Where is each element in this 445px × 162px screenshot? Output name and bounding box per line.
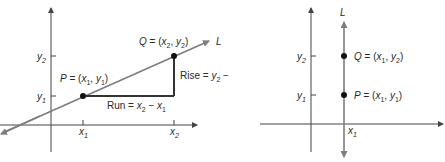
y1-label: y1 bbox=[36, 91, 46, 104]
line-l-label: L bbox=[216, 36, 222, 47]
panel-gap bbox=[230, 0, 260, 162]
point-p bbox=[80, 93, 86, 99]
point-q bbox=[171, 53, 177, 59]
x1-label: x1 bbox=[78, 126, 88, 139]
x2-label: x2 bbox=[169, 126, 179, 139]
point-p bbox=[341, 92, 347, 98]
left-diagram: y2 y1 x1 x2 L P = (x1, y1) Q = (x2, y2) … bbox=[0, 8, 241, 152]
point-q-label: Q = (x2, y2) bbox=[139, 36, 188, 49]
right-diagram: L y2 y1 x1 Q = (x1, y2) P = (x1, y1) bbox=[260, 7, 443, 157]
y2-label: y2 bbox=[296, 51, 306, 64]
y1-label: y1 bbox=[296, 90, 306, 103]
slope-diagrams: y2 y1 x1 x2 L P = (x1, y1) Q = (x2, y2) … bbox=[0, 0, 445, 162]
point-q bbox=[341, 53, 347, 59]
x1-label: x1 bbox=[347, 125, 357, 138]
y2-label: y2 bbox=[36, 51, 46, 64]
line-l-label: L bbox=[340, 7, 346, 18]
run-label: Run = x2 − x1 bbox=[107, 100, 166, 113]
point-q-label: Q = (x1, y2) bbox=[354, 51, 403, 64]
point-p-label: P = (x1, y1) bbox=[354, 90, 402, 103]
point-p-label: P = (x1, y1) bbox=[60, 73, 108, 86]
